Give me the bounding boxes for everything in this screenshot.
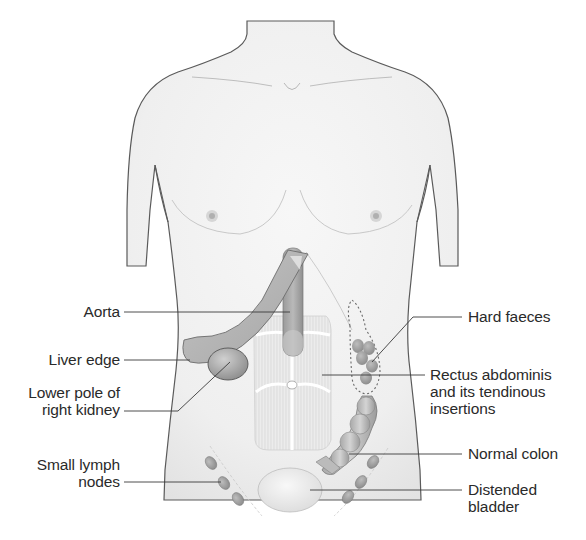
label-hard-faeces: Hard faeces — [468, 308, 550, 325]
anatomy-figure: Aorta Liver edge Lower pole of right kid… — [0, 0, 586, 540]
label-liver-edge: Liver edge — [49, 351, 120, 368]
label-aorta: Aorta — [83, 303, 120, 320]
label-right-kidney: Lower pole of right kidney — [28, 384, 120, 418]
label-colon: Normal colon — [468, 445, 558, 462]
nipple — [373, 213, 379, 219]
label-rectus: Rectus abdominis and its tendinous inser… — [430, 366, 552, 417]
label-bladder: Distended bladder — [468, 481, 537, 515]
nipple — [209, 213, 215, 219]
label-lymph-nodes: Small lymph nodes — [37, 456, 120, 490]
